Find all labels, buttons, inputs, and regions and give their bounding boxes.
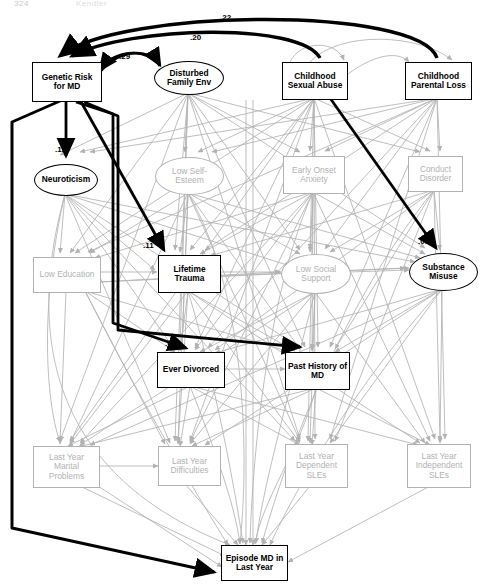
nonsignificant-paths (48, 39, 453, 567)
path-coefficient-g_to_pasthx: .11 (281, 339, 292, 348)
path-coefficient-g_to_cpl: .22 (220, 13, 231, 22)
path-coefficient-g_to_divorced: .08 (165, 339, 176, 348)
path-coefficient-csa_to_subst: .09 (418, 237, 429, 246)
path-coefficient-g_to_neuro: .12 (55, 145, 66, 154)
path-coefficient-g_to_csa: .20 (190, 33, 201, 42)
path-coefficient-g_to_dfe: .29 (119, 52, 130, 61)
path-coefficient-g_to_episode: .10 (196, 565, 207, 574)
path-diagram-figure: 324 Kendler (0, 0, 483, 587)
diagram-canvas (0, 0, 483, 587)
path-coefficient-g_to_trauma: .11 (143, 241, 154, 250)
